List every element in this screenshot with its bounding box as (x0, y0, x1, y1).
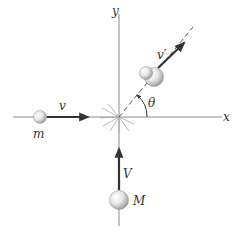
label-M: M (133, 195, 145, 207)
label-v-prime: v′ (157, 49, 167, 61)
y-axis-label: y (112, 5, 119, 17)
label-m: m (33, 128, 44, 140)
x-axis-label: x (223, 111, 230, 123)
diagram-canvas (0, 0, 235, 232)
label-theta: θ (148, 97, 155, 109)
angle-arc (137, 95, 147, 117)
collision-diagram: y x v m V M v′ θ (0, 0, 235, 232)
ball-combined (140, 67, 164, 87)
label-v: v (59, 100, 66, 112)
ball-M (110, 191, 129, 210)
ball-m (34, 111, 47, 124)
collision-burst-icon (100, 104, 134, 133)
label-V: V (123, 168, 132, 180)
